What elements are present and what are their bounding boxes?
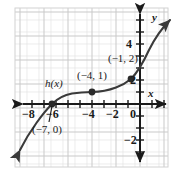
x-tick-label-neg8: −8 <box>22 108 35 120</box>
x-tick-label-neg6: −6 <box>46 108 59 120</box>
point-label-neg1-2: (−1, 2) <box>108 53 138 64</box>
y-axis-label: y <box>152 12 157 23</box>
point-marker <box>89 89 96 96</box>
coordinate-graph-figure: −8 −6 −4 −2 0 4 2 −2 x y h(x) (−7, 0) (−… <box>0 0 181 180</box>
x-tick-label-neg4: −4 <box>82 108 95 120</box>
y-tick-label-4: 4 <box>126 38 132 50</box>
point-label-neg7-0: (−7, 0) <box>32 124 62 135</box>
y-tick-label-neg2: −2 <box>124 134 137 146</box>
y-tick-label-2: 2 <box>130 74 136 86</box>
point-label-neg4-1: (−4, 1) <box>77 70 107 81</box>
function-label-h-of-x: h(x) <box>45 78 63 89</box>
x-tick-label-neg2: −2 <box>106 108 119 120</box>
x-axis-label: x <box>148 88 154 99</box>
x-tick-label-0: 0 <box>130 108 136 120</box>
